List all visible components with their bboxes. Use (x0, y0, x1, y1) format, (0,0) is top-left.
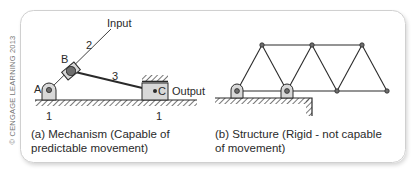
label-input: Input (107, 17, 131, 29)
label-link-3: 3 (112, 70, 118, 82)
label-joint-b: B (61, 53, 68, 65)
label-joint-c: C (158, 85, 166, 97)
caption-b-line1: (b) Structure (Rigid - not capable (215, 127, 382, 141)
caption-b-line2: of movement) (215, 141, 285, 155)
ground-hatch-a (35, 100, 197, 106)
label-joint-a: A (34, 83, 42, 95)
caption-a-line2: predictable movement) (31, 141, 148, 155)
label-ground-right: 1 (156, 110, 162, 122)
caption-a-line1: (a) Mechanism (Capable of (31, 127, 170, 141)
copyright-notice: © CENGAGE LEARNING 2013 (8, 36, 17, 145)
label-output: Output (172, 85, 205, 97)
pivot-a-support (42, 83, 56, 100)
label-link-2: 2 (86, 39, 92, 51)
label-ground-left: 1 (46, 110, 52, 122)
